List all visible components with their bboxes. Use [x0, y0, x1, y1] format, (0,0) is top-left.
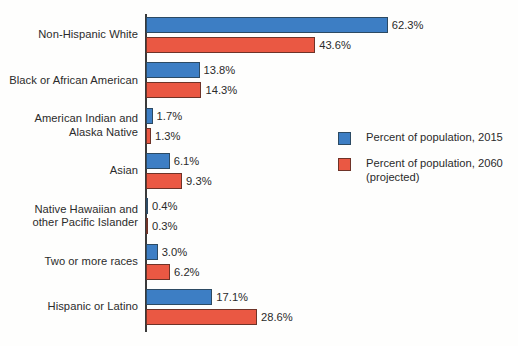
chart-page: Non-Hispanic White62.3%43.6%Black or Afr…: [0, 0, 518, 346]
bar-item[interactable]: 43.6%: [146, 37, 516, 53]
bar-rect[interactable]: [146, 62, 200, 78]
bar-rect[interactable]: [146, 173, 182, 189]
bar-item[interactable]: 13.8%: [146, 62, 516, 78]
bar-rect[interactable]: [146, 153, 170, 169]
bar-value-label: 62.3%: [388, 17, 424, 33]
bar-value-label: 13.8%: [200, 62, 236, 78]
bar-item[interactable]: 62.3%: [146, 17, 516, 33]
bar-rect[interactable]: [146, 309, 257, 325]
bar-value-label: 0.4%: [148, 198, 178, 214]
bar-value-label: 6.2%: [170, 264, 200, 280]
category-label: Native Hawaiian and other Pacific Island…: [0, 203, 138, 230]
bar-value-label: 28.6%: [257, 309, 293, 325]
category-label: Asian: [0, 164, 138, 178]
category-label: American Indian and Alaska Native: [0, 112, 138, 139]
bar-value-label: 1.3%: [151, 128, 181, 144]
bar-value-label: 1.7%: [153, 108, 183, 124]
bar-item[interactable]: 28.6%: [146, 309, 516, 325]
chart-legend: Percent of population, 2015Percent of po…: [338, 131, 514, 194]
bar-rect[interactable]: [146, 17, 388, 33]
legend-item[interactable]: Percent of population, 2060 (projected): [338, 157, 514, 184]
bar-rect[interactable]: [146, 244, 158, 260]
bar-item[interactable]: 14.3%: [146, 82, 516, 98]
bar-value-label: 17.1%: [212, 289, 248, 305]
bar-item[interactable]: 6.2%: [146, 264, 516, 280]
bar-rect[interactable]: [146, 108, 153, 124]
legend-label: Percent of population, 2015: [366, 131, 514, 145]
bar-rect[interactable]: [146, 289, 212, 305]
category-label: Hispanic or Latino: [0, 300, 138, 314]
bar-item[interactable]: 3.0%: [146, 244, 516, 260]
bar-value-label: 9.3%: [182, 173, 212, 189]
category-label: Two or more races: [0, 255, 138, 269]
bar-value-label: 0.3%: [148, 218, 178, 234]
bar-item[interactable]: 1.7%: [146, 108, 516, 124]
category-label: Non-Hispanic White: [0, 28, 138, 42]
bar-value-label: 14.3%: [201, 82, 237, 98]
bar-item[interactable]: 17.1%: [146, 289, 516, 305]
bar-item[interactable]: 0.3%: [146, 218, 516, 234]
legend-color-swatch: [338, 158, 351, 171]
bar-value-label: 6.1%: [170, 153, 200, 169]
bar-item[interactable]: 0.4%: [146, 198, 516, 214]
bar-rect[interactable]: [146, 264, 170, 280]
legend-label: Percent of population, 2060 (projected): [366, 157, 514, 184]
legend-item[interactable]: Percent of population, 2015: [338, 131, 514, 147]
category-label: Black or African American: [0, 74, 138, 88]
bar-value-label: 3.0%: [158, 244, 188, 260]
bar-rect[interactable]: [146, 37, 315, 53]
bar-rect[interactable]: [146, 82, 201, 98]
bar-value-label: 43.6%: [315, 37, 351, 53]
legend-color-swatch: [338, 132, 351, 145]
